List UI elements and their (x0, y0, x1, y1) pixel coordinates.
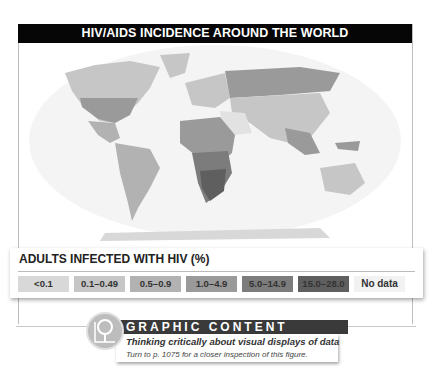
callout-subheading: Thinking critically about visual display… (126, 336, 339, 347)
callout-note: Turn to p. 1075 for a closer inspection … (126, 350, 308, 359)
legend-swatch-1.0-4.9: 1.0–4.9 (186, 276, 237, 292)
legend-swatch-lt-0.1: <0.1 (18, 276, 69, 292)
legend-swatch-15.0-28.0: 15.0–28.0 (298, 276, 349, 292)
legend-swatch-0.5-0.9: 0.5–0.9 (130, 276, 181, 292)
legend-swatch-5.0-14.9: 5.0–14.9 (242, 276, 293, 292)
legend-swatch-0.1-0.49: 0.1–0.49 (74, 276, 125, 292)
figure-title: HIV/AIDS INCIDENCE AROUND THE WORLD (18, 24, 412, 43)
callout-body: Thinking critically about visual display… (116, 334, 338, 362)
callout-heading: GRAPHIC CONTENT (116, 320, 348, 334)
magnifier-chart-icon (86, 312, 124, 350)
legend-swatch-no-data: No data (354, 276, 405, 292)
legend-divider (18, 271, 415, 272)
legend-swatches: <0.1 0.1–0.49 0.5–0.9 1.0–4.9 5.0–14.9 1… (18, 276, 405, 292)
world-map (20, 43, 410, 243)
legend-panel: ADULTS INFECTED WITH HIV (%) <0.1 0.1–0.… (10, 248, 423, 298)
legend-title: ADULTS INFECTED WITH HIV (%) (19, 252, 209, 266)
graphic-content-callout: GRAPHIC CONTENT Thinking critically abou… (86, 312, 356, 368)
